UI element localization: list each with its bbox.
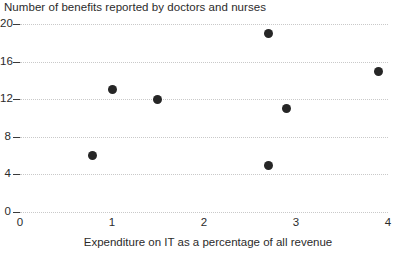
gridline <box>20 137 388 138</box>
gridline <box>20 62 388 63</box>
y-tick-mark <box>13 212 20 213</box>
x-tick-label: 0 <box>5 216 35 228</box>
y-tick-mark <box>13 99 20 100</box>
y-tick-mark <box>13 174 20 175</box>
data-point <box>153 95 162 104</box>
y-tick-label: 12 <box>0 93 11 105</box>
y-tick-label: 16 <box>0 56 11 68</box>
data-point <box>264 161 273 170</box>
x-tick-label: 4 <box>373 216 403 228</box>
y-tick-mark <box>13 137 20 138</box>
plot-area <box>20 24 388 212</box>
data-point <box>282 104 291 113</box>
data-point <box>374 67 383 76</box>
y-tick-label: 4 <box>0 168 11 180</box>
x-tick-label: 3 <box>281 216 311 228</box>
data-point <box>264 29 273 38</box>
gridline <box>20 212 388 213</box>
x-tick-label: 1 <box>97 216 127 228</box>
data-point <box>88 151 97 160</box>
gridline <box>20 174 388 175</box>
y-tick-label: 20 <box>0 18 11 30</box>
gridline <box>20 24 388 25</box>
y-tick-label: 8 <box>0 131 11 143</box>
data-point <box>108 85 117 94</box>
x-tick-label: 2 <box>189 216 219 228</box>
gridline <box>20 99 388 100</box>
chart-title: Number of benefits reported by doctors a… <box>4 1 266 14</box>
y-tick-mark <box>13 24 20 25</box>
x-axis-label: Expenditure on IT as a percentage of all… <box>0 236 416 249</box>
scatter-chart: Number of benefits reported by doctors a… <box>0 0 416 255</box>
y-tick-mark <box>13 62 20 63</box>
